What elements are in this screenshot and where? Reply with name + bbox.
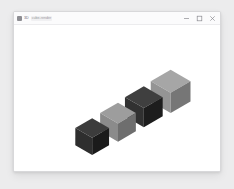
minimize-button[interactable] xyxy=(183,15,190,22)
page-root: 3D cube-render xyxy=(0,0,234,189)
titlebar-left-group: 3D cube-render xyxy=(17,16,52,21)
close-button[interactable] xyxy=(209,15,216,22)
window-controls xyxy=(183,15,218,22)
app-favicon-icon xyxy=(17,16,22,21)
isometric-cube-scene xyxy=(14,25,220,171)
app-window: 3D cube-render xyxy=(13,11,221,172)
window-subtitle: cube-render xyxy=(31,16,52,21)
window-content xyxy=(14,25,220,171)
window-titlebar[interactable]: 3D cube-render xyxy=(14,12,220,25)
cube-scene-svg xyxy=(14,25,220,171)
maximize-button[interactable] xyxy=(196,15,203,22)
window-title: 3D xyxy=(24,16,29,21)
